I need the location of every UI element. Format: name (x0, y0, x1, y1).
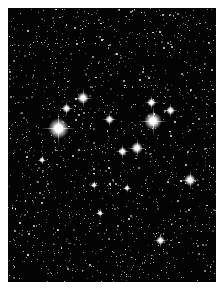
star-field-image (8, 8, 216, 282)
